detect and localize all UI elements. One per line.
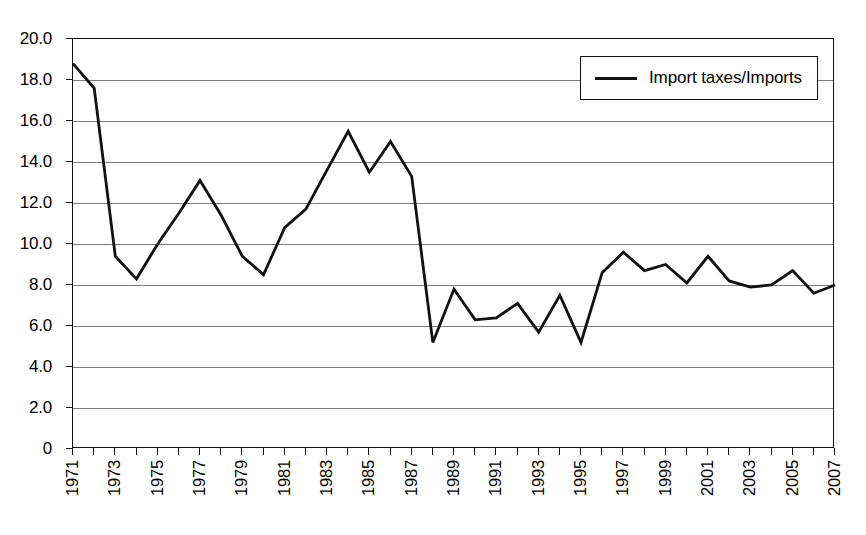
x-tick-mark	[72, 448, 73, 455]
x-tick-label: 1985	[360, 460, 376, 496]
x-tick-mark	[665, 448, 666, 455]
y-tick-label: 14.0	[20, 153, 52, 170]
y-tick-label: 8.0	[29, 276, 52, 293]
x-tick-mark	[432, 448, 433, 455]
x-tick-mark	[601, 448, 602, 455]
x-tick-mark	[411, 448, 412, 455]
x-tick-label: 2005	[784, 460, 800, 496]
x-tick-mark	[495, 448, 496, 455]
x-tick-mark	[580, 448, 581, 455]
legend-line-swatch	[595, 77, 637, 80]
x-tick-label: 1979	[233, 460, 249, 496]
x-tick-label: 1993	[530, 460, 546, 496]
x-tick-label: 1977	[191, 460, 207, 496]
x-tick-mark	[390, 448, 391, 455]
x-tick-label: 2001	[699, 460, 715, 496]
y-tick-label: 20.0	[20, 30, 52, 47]
series-line	[73, 64, 835, 343]
legend-label: Import taxes/Imports	[649, 69, 802, 87]
x-tick-mark	[517, 448, 518, 455]
x-axis: 1971197319751977197919811983198519871989…	[72, 448, 834, 535]
x-tick-mark	[326, 448, 327, 455]
x-tick-mark	[771, 448, 772, 455]
x-tick-label: 1991	[487, 460, 503, 496]
y-tick-label: 12.0	[20, 194, 52, 211]
x-tick-mark	[220, 448, 221, 455]
x-tick-mark	[93, 448, 94, 455]
y-tick-label: 10.0	[20, 235, 52, 252]
x-tick-label: 1971	[64, 460, 80, 496]
y-tick-label: 18.0	[20, 71, 52, 88]
x-tick-mark	[686, 448, 687, 455]
x-tick-mark	[792, 448, 793, 455]
x-tick-mark	[834, 448, 835, 455]
x-tick-label: 2007	[826, 460, 842, 496]
x-tick-mark	[284, 448, 285, 455]
x-tick-mark	[136, 448, 137, 455]
y-tick-label: 6.0	[29, 317, 52, 334]
x-tick-label: 1981	[276, 460, 292, 496]
x-tick-mark	[347, 448, 348, 455]
x-tick-mark	[622, 448, 623, 455]
line-chart: 02.04.06.08.010.012.014.016.018.020.0 19…	[0, 0, 866, 535]
x-tick-mark	[199, 448, 200, 455]
x-tick-label: 1997	[614, 460, 630, 496]
y-tick-label: 2.0	[29, 399, 52, 416]
x-tick-mark	[263, 448, 264, 455]
x-tick-label: 1983	[318, 460, 334, 496]
x-tick-mark	[707, 448, 708, 455]
x-tick-label: 1987	[403, 460, 419, 496]
x-tick-label: 1975	[149, 460, 165, 496]
series-layer	[73, 39, 835, 449]
x-tick-label: 1999	[657, 460, 673, 496]
x-tick-mark	[728, 448, 729, 455]
x-tick-mark	[368, 448, 369, 455]
x-tick-mark	[644, 448, 645, 455]
x-tick-label: 1995	[572, 460, 588, 496]
y-tick-label: 4.0	[29, 358, 52, 375]
x-tick-label: 1973	[106, 460, 122, 496]
x-tick-mark	[157, 448, 158, 455]
x-tick-mark	[453, 448, 454, 455]
x-tick-mark	[474, 448, 475, 455]
x-tick-mark	[538, 448, 539, 455]
x-tick-mark	[305, 448, 306, 455]
x-tick-label: 2003	[741, 460, 757, 496]
y-tick-label: 16.0	[20, 112, 52, 129]
x-tick-mark	[749, 448, 750, 455]
y-tick-label: 0	[43, 440, 52, 457]
x-tick-mark	[241, 448, 242, 455]
x-tick-mark	[178, 448, 179, 455]
x-tick-mark	[114, 448, 115, 455]
x-tick-label: 1989	[445, 460, 461, 496]
chart-legend: Import taxes/Imports	[580, 56, 818, 100]
y-axis: 02.04.06.08.010.012.014.016.018.020.0	[0, 0, 62, 535]
x-tick-mark	[813, 448, 814, 455]
x-tick-mark	[559, 448, 560, 455]
